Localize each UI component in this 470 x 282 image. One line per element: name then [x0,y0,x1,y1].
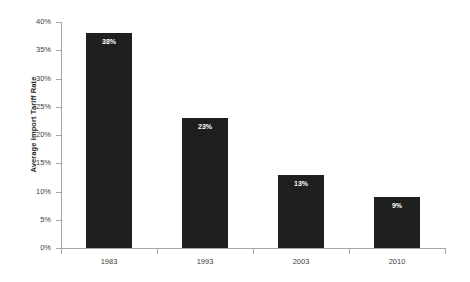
x-tick-label: 2010 [349,258,445,266]
plot-area: 38%23%13%9% [61,22,445,248]
bar[interactable]: 23% [182,118,228,248]
y-tick-label: 5% [11,216,51,224]
bar-value-label: 38% [86,38,132,45]
y-tick-label: 10% [11,188,51,196]
bar[interactable]: 13% [278,175,324,248]
x-tick-label: 1983 [61,258,157,266]
x-tick-mark [157,249,158,254]
bar[interactable]: 9% [374,197,420,248]
bar-value-label: 23% [182,123,228,130]
bar[interactable]: 38% [86,33,132,248]
y-tick-label: 25% [11,103,51,111]
y-tick-label: 35% [11,46,51,54]
y-tick-label: 30% [11,75,51,83]
x-tick-label: 1993 [157,258,253,266]
y-axis-title: Average Import Tariff Rate [29,40,38,210]
x-tick-mark [61,249,62,254]
x-tick-mark [445,249,446,254]
bar-value-label: 9% [374,202,420,209]
y-tick-label: 0% [11,244,51,252]
bar-value-label: 13% [278,180,324,187]
y-tick-label: 15% [11,159,51,167]
x-tick-label: 2003 [253,258,349,266]
x-tick-mark [349,249,350,254]
y-tick-label: 20% [11,131,51,139]
y-tick-label: 40% [11,18,51,26]
x-tick-mark [253,249,254,254]
bar-chart: Average Import Tariff Rate 0%5%10%15%20%… [0,0,470,282]
